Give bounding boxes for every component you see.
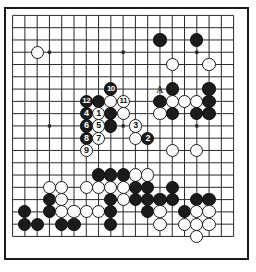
stone-white-move-1: 1 xyxy=(92,107,105,120)
move-number: 2 xyxy=(142,133,153,144)
move-number: 8 xyxy=(81,133,92,144)
move-number: 9 xyxy=(81,145,92,156)
stone-white-move-5: 5 xyxy=(92,119,105,132)
stone-black-move-10: 10 xyxy=(104,82,117,95)
stone-black-move-2: 2 xyxy=(141,132,154,145)
point-label-a: A xyxy=(153,82,166,95)
stone-black-move-6: 6 xyxy=(80,119,93,132)
stone-black-move-12: 12 xyxy=(80,95,93,108)
label-layer: A xyxy=(0,0,256,272)
move-number: 11 xyxy=(118,96,129,107)
stone-white-move-3: 3 xyxy=(129,119,142,132)
move-number: 1 xyxy=(93,108,104,119)
go-diagram: 101211416538729 A xyxy=(0,0,256,272)
stone-white-move-7: 7 xyxy=(92,132,105,145)
stone-black-move-8: 8 xyxy=(80,132,93,145)
move-number: 10 xyxy=(105,83,116,94)
move-number: 6 xyxy=(81,120,92,131)
move-number: 4 xyxy=(81,108,92,119)
stone-black-move-4: 4 xyxy=(80,107,93,120)
move-number: 7 xyxy=(93,133,104,144)
move-number: 3 xyxy=(130,120,141,131)
move-number: 12 xyxy=(81,96,92,107)
stone-white-move-9: 9 xyxy=(80,144,93,157)
stone-white-move-11: 11 xyxy=(117,95,130,108)
move-number: 5 xyxy=(93,120,104,131)
